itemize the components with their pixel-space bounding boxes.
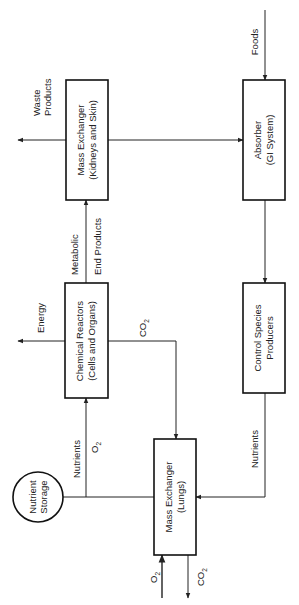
svg-text:CO2: CO2 [137,319,150,337]
o2-reactor-label: O2 [89,442,102,453]
kidneys-label: Mass Exchanger (Kidneys and Skin) [75,100,98,180]
svg-text:Mass Exchanger: Mass Exchanger [163,462,174,533]
svg-text:(Kidneys and Skin): (Kidneys and Skin) [87,100,98,180]
svg-text:(Lungs): (Lungs) [175,481,186,513]
svg-text:End Products: End Products [92,218,103,275]
absorber-label: Absorber (GI System) [252,115,275,166]
reactor-co2-arrow [108,341,176,439]
body-systems-diagram: Mass Exchanger (Kidneys and Skin) Absorb… [0,0,299,605]
svg-text:Energy: Energy [35,303,46,333]
nutrients-producer-label: Nutrients [249,430,260,468]
svg-text:Nutrient: Nutrient [27,480,38,514]
svg-text:Nutrients: Nutrients [249,430,260,468]
storage-label: Nutrient Storage [27,480,49,514]
svg-text:Nutrients: Nutrients [71,440,82,478]
co2-out-label: CO2 [195,568,208,586]
svg-text:(Cells and Organs): (Cells and Organs) [86,301,97,381]
energy-label: Energy [35,303,46,333]
svg-text:CO2: CO2 [195,568,208,586]
svg-text:Products: Products [42,78,53,116]
svg-text:O2: O2 [89,442,102,453]
waste-products-label: Waste Products [31,78,53,116]
nutrients-reactor-label: Nutrients [71,440,82,478]
reactors-label: Chemical Reactors (Cells and Organs) [74,301,97,381]
svg-text:Mass Exchanger: Mass Exchanger [75,105,86,176]
svg-text:Absorber: Absorber [252,121,263,160]
svg-text:(GI System): (GI System) [264,115,275,166]
svg-text:Storage: Storage [38,480,49,513]
svg-text:Control Species: Control Species [252,304,263,371]
svg-text:Producers: Producers [264,316,275,360]
svg-text:O2: O2 [148,572,161,583]
svg-text:Waste: Waste [31,89,42,116]
reactor-co2-label: CO2 [137,319,150,337]
svg-text:Metabolic: Metabolic [69,234,80,275]
svg-text:Foods: Foods [249,29,260,56]
svg-text:Chemical Reactors: Chemical Reactors [74,301,85,381]
foods-label: Foods [249,29,260,56]
o2-in-label: O2 [148,572,161,583]
